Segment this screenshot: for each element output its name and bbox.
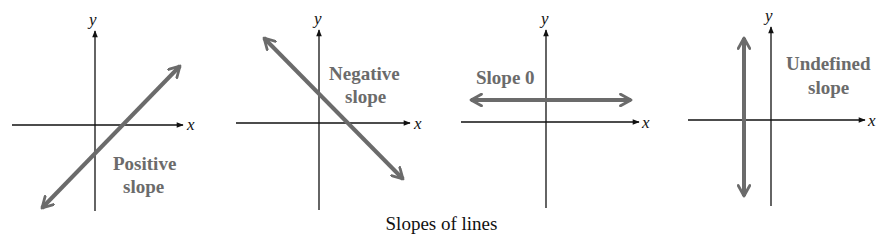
figure-caption: Slopes of lines — [0, 213, 883, 235]
panel-positive-slope: x y Positive slope — [12, 10, 195, 211]
x-axis-label: x — [867, 111, 876, 130]
x-axis-label: x — [186, 115, 195, 134]
slope-label-line2: slope — [345, 86, 386, 107]
negative-slope-line — [264, 38, 403, 179]
slope-label-line1: Negative — [329, 63, 400, 84]
y-axis-label: y — [539, 9, 549, 28]
slope-label-line1: Undefined — [786, 53, 871, 74]
panel-zero-slope: x y Slope 0 — [461, 9, 650, 208]
y-axis-label: y — [87, 10, 97, 29]
x-axis-label: x — [641, 113, 650, 132]
slope-label-line2: slope — [808, 77, 849, 98]
slope-label-line1: Slope 0 — [476, 67, 535, 88]
x-axis-label: x — [413, 114, 422, 133]
panel-undefined-slope: x y Undefined slope — [688, 6, 876, 206]
slope-label-line2: slope — [123, 176, 164, 197]
panel-negative-slope: x y Negative slope — [236, 9, 422, 210]
slope-label-line1: Positive — [113, 153, 176, 174]
y-axis-label: y — [312, 9, 322, 28]
y-axis-label: y — [763, 6, 773, 25]
